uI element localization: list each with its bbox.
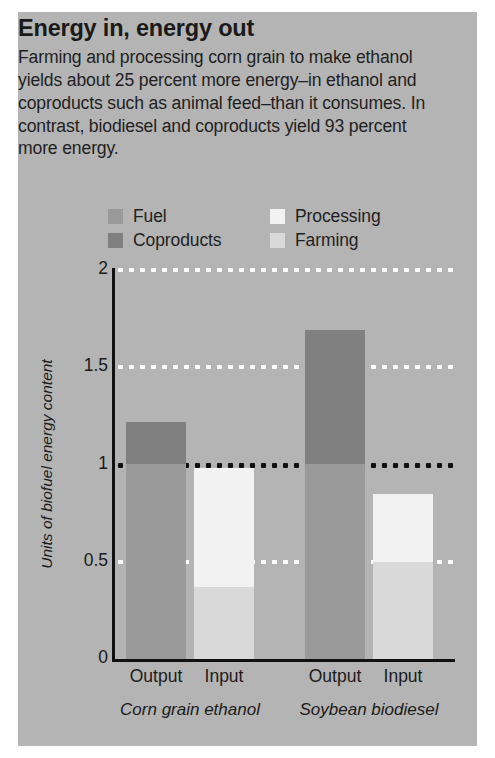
bar-segment-coproducts: [126, 422, 186, 465]
bar-segment-farming: [194, 587, 254, 659]
y-tick-label: 0: [62, 647, 108, 668]
bar-segment-fuel: [305, 464, 365, 659]
bar-corn-input: [194, 468, 254, 659]
bar-soybean-output: [305, 330, 365, 659]
y-axis-title: Units of biofuel energy content: [38, 349, 56, 579]
bar-soybean-input: [373, 494, 433, 659]
gridline: [115, 268, 455, 272]
bar-segment-processing: [194, 468, 254, 587]
y-axis-ticks: 00.511.52: [58, 0, 108, 758]
y-axis-line: [112, 268, 115, 662]
bar-segment-coproducts: [305, 330, 365, 464]
gridline: [115, 365, 455, 369]
bar-corn-output: [126, 422, 186, 659]
bar-chart: Units of biofuel energy content 00.511.5…: [0, 0, 495, 758]
y-tick-label: 1.5: [62, 355, 108, 376]
y-tick-label: 2: [62, 258, 108, 279]
bar-segment-fuel: [126, 464, 186, 659]
y-tick-label: 1: [62, 453, 108, 474]
x-tick-label: Input: [359, 666, 447, 687]
bar-segment-processing: [373, 494, 433, 562]
x-tick-label: Input: [180, 666, 268, 687]
bar-segment-farming: [373, 562, 433, 659]
poster-page: Energy in, energy out Farming and proces…: [0, 0, 495, 758]
y-tick-label: 0.5: [62, 550, 108, 571]
x-axis-line: [112, 659, 455, 662]
group-label: Soybean biodiesel: [259, 700, 479, 720]
